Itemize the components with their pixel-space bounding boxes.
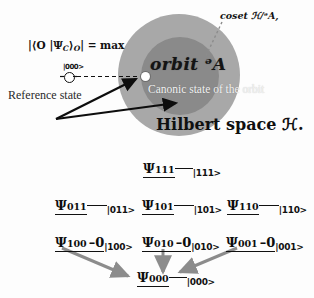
orbit-label: orbit ᵊA	[150, 54, 226, 74]
zero-mark-100: –0	[89, 235, 105, 250]
canonic-state-dot	[141, 72, 150, 81]
psi-label-101: Ψ101	[142, 198, 174, 215]
stem-110	[259, 205, 279, 206]
ket-label-011: |011>	[107, 205, 135, 215]
ket-label-110: |110>	[279, 205, 307, 215]
lattice-node-011: Ψ011|011>	[55, 195, 135, 215]
psi-label-001: Ψ001–0	[226, 235, 275, 252]
lattice-node-110: Ψ110|110>	[227, 195, 307, 215]
lattice-node-001: Ψ001–0|001>	[226, 232, 303, 252]
reference-state-label: Reference state	[8, 88, 82, 103]
stem-000	[169, 277, 187, 278]
hilbert-space-label: Hilbert space ℋ.	[156, 115, 304, 134]
psi-label-011: Ψ011	[55, 198, 87, 215]
stem-111	[175, 168, 193, 169]
zero-mark-001: –0	[260, 235, 276, 250]
orbit-hilbert-space-figure: coset ℋ/ᵊA, |⟨O |ΨC⟩O| = max |000> orbit…	[0, 0, 314, 298]
stem-011	[87, 205, 107, 206]
canonic-state-label: Canonic state of the orbit	[148, 83, 264, 95]
ket-label-101: |101>	[194, 205, 222, 215]
lattice-node-000: Ψ000|000>	[137, 267, 215, 287]
psi-label-111: Ψ111	[143, 161, 175, 178]
ket-label-001: |001>	[275, 242, 303, 252]
psi-label-010: Ψ010–0	[142, 235, 191, 252]
zero-mark-010: –0	[176, 235, 192, 250]
ket-label-111: |111>	[193, 168, 221, 178]
lattice-node-010: Ψ010–0|010>	[142, 232, 219, 252]
psi-label-000: Ψ000	[137, 270, 169, 287]
lattice-node-100: Ψ100–0|100>	[55, 232, 132, 252]
ket-label-010: |010>	[191, 242, 219, 252]
psi-label-110: Ψ110	[227, 198, 259, 215]
stem-101	[174, 205, 194, 206]
psi-label-100: Ψ100–0	[55, 235, 104, 252]
lattice-node-111: Ψ111|111>	[143, 158, 221, 178]
lattice-node-101: Ψ101|101>	[142, 195, 222, 215]
ket-label-000: |000>	[187, 277, 215, 287]
ket-label-100: |100>	[104, 242, 132, 252]
